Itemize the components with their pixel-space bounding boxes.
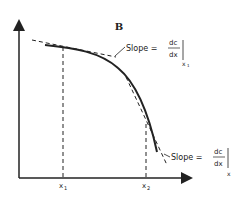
x-tick-1: x 1 — [59, 182, 67, 191]
curve — [45, 45, 157, 152]
leader-1 — [115, 47, 125, 56]
svg-text:x: x — [227, 170, 231, 177]
svg-text:dc: dc — [214, 148, 222, 156]
slope-label-1: Slope = dc dx x 1 — [126, 39, 190, 68]
tangent-line-1 — [32, 40, 116, 57]
svg-text:Slope =: Slope = — [126, 44, 157, 53]
svg-text:Slope =: Slope = — [171, 153, 202, 162]
svg-text:1: 1 — [64, 185, 67, 191]
panel-label: B — [115, 21, 123, 32]
svg-text:x: x — [182, 60, 186, 67]
leader-2 — [164, 154, 170, 157]
diagram-canvas: B Slope = dc dx x 1 Slope = dc dx x x 1 … — [0, 0, 231, 205]
svg-text:dx: dx — [169, 51, 178, 59]
slope-label-2: Slope = dc dx x — [171, 148, 231, 177]
svg-text:dc: dc — [169, 39, 177, 47]
svg-text:x: x — [59, 182, 63, 190]
svg-text:dx: dx — [214, 160, 223, 168]
svg-text:2: 2 — [147, 185, 150, 191]
x-tick-2: x 2 — [142, 182, 150, 191]
svg-text:1: 1 — [187, 63, 190, 68]
tangent-line-2 — [126, 77, 167, 165]
svg-text:x: x — [142, 182, 146, 190]
